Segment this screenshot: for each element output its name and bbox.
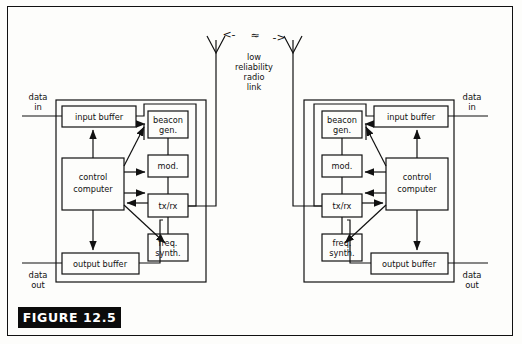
station-left-beacon-gen-label-1: beacon — [153, 115, 183, 125]
station-right-beacon-gen-label-2: gen. — [333, 125, 351, 135]
station-right-data-in-label-2: in — [468, 102, 476, 112]
link-label-line-2: reliability — [235, 62, 273, 72]
station-left-output-buffer-label: output buffer — [73, 259, 128, 269]
station-left-data-out-label-2: out — [31, 280, 45, 290]
link-wave-icon: ≈ — [250, 29, 259, 42]
station-left-beacon-gen-label-2: gen. — [159, 125, 177, 135]
station-left-data-out-label-1: data — [29, 270, 48, 280]
antenna-right — [284, 36, 322, 206]
station-right-output-buffer-label: output buffer — [382, 259, 437, 269]
station-right-freq-synth-label-2: synth. — [329, 248, 354, 258]
station-left-txrx-label: tx/rx — [159, 201, 178, 211]
station-right-data-out-label-1: data — [463, 270, 482, 280]
station-right-feed-beacon — [365, 124, 366, 140]
block-diagram: <- ≈ -> low reliability radio link data … — [0, 0, 522, 344]
station-left-data-in-label-2: in — [34, 102, 42, 112]
link-label-line-3: radio — [244, 72, 265, 82]
station-right-input-buffer-label: input buffer — [387, 112, 436, 122]
link-label-line-4: link — [247, 82, 262, 92]
station-left: data in data out input buffer output buf… — [22, 92, 206, 290]
station-right-data-in-label-1: data — [463, 92, 482, 102]
station-right-control-computer-label-2: computer — [397, 184, 437, 194]
station-right-txrx-label: tx/rx — [333, 201, 352, 211]
radio-link-group: <- ≈ -> low reliability radio link — [188, 28, 322, 206]
station-right-data-out-label-2: out — [465, 280, 479, 290]
station-left-input-buffer-label: input buffer — [75, 112, 124, 122]
figure-caption-text: FIGURE 12.5 — [23, 310, 117, 325]
link-arrow-left: <- — [222, 28, 235, 41]
station-left-control-computer-label-1: control — [79, 172, 107, 182]
station-left-feed-beacon — [144, 124, 145, 140]
link-label-line-1: low — [247, 52, 261, 62]
station-right-beacon-gen-label-1: beacon — [327, 115, 357, 125]
station-right: data in data out input buffer output buf… — [304, 92, 488, 290]
station-left-mod-label: mod. — [158, 161, 179, 171]
station-left-arrow-cc-to-beacon-gen — [124, 127, 144, 166]
figure-caption-bar: FIGURE 12.5 — [18, 307, 121, 328]
station-left-control-computer-label-2: computer — [73, 184, 113, 194]
station-right-control-computer-label-1: control — [403, 172, 431, 182]
link-arrow-right: -> — [272, 31, 285, 44]
station-right-arrow-cc-to-beacon-gen — [366, 127, 386, 166]
station-left-data-in-label-1: data — [29, 92, 48, 102]
station-right-mod-label: mod. — [332, 161, 353, 171]
figure-page: <- ≈ -> low reliability radio link data … — [0, 0, 522, 344]
station-left-freq-synth-label-2: synth. — [155, 248, 180, 258]
